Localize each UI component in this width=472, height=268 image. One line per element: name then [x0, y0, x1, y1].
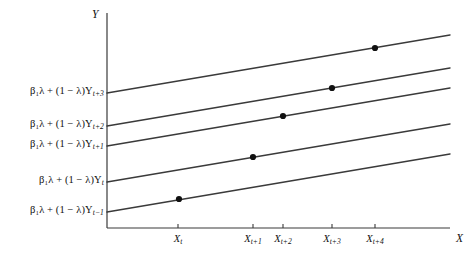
y-axis-tick-label: β₁λ + (1 − λ)Yt+1	[30, 138, 104, 149]
x-axis-tick-label-subscript: t+2	[281, 237, 292, 246]
y-axis-tick-label-text: β₁λ + (1 − λ)Y	[39, 174, 102, 185]
regression-line-4	[107, 124, 450, 182]
y-axis-tick-label-subscript: t	[102, 178, 104, 187]
y-axis-tick-label-text: β₁λ + (1 − λ)Y	[30, 85, 93, 96]
y-axis-tick-label-subscript: t−1	[93, 208, 104, 217]
y-axis-tick-label-text: β₁λ + (1 − λ)Y	[30, 138, 93, 149]
x-axis-tick-label: Xt	[158, 233, 198, 244]
data-point-point-t+3	[372, 45, 378, 51]
x-axis-tick-label-subscript: t	[180, 237, 182, 246]
y-axis-tick-label-text: β₁λ + (1 − λ)Y	[30, 118, 93, 129]
x-axis-tick-label: Xt+3	[312, 233, 352, 244]
data-point-point-t	[250, 154, 256, 160]
x-axis-title: X	[456, 232, 463, 244]
x-axis-tick-label-text: X	[244, 233, 250, 244]
plot-area	[0, 0, 472, 268]
y-axis-tick-label-subscript: t+2	[93, 122, 104, 131]
x-axis-tick-label: Xt+2	[263, 233, 303, 244]
x-axis-tick-label-subscript: t+4	[373, 237, 384, 246]
x-axis-tick-label-text: X	[366, 233, 372, 244]
x-axis-tick-label: Xt+4	[355, 233, 395, 244]
x-axis-tick-label-text: X	[323, 233, 329, 244]
y-axis-title: Y	[92, 8, 98, 20]
y-axis-tick-label: β₁λ + (1 − λ)Yt+2	[30, 118, 104, 129]
data-point-point-t+2	[329, 85, 335, 91]
y-axis-tick-label: β₁λ + (1 − λ)Yt	[39, 174, 104, 185]
y-axis-tick-label-text: β₁λ + (1 − λ)Y	[30, 204, 93, 215]
figure-canvas: β₁λ + (1 − λ)Yt+3β₁λ + (1 − λ)Yt+2β₁λ + …	[0, 0, 472, 268]
y-axis-tick-label: β₁λ + (1 − λ)Yt−1	[30, 204, 104, 215]
data-point-point-t-1	[176, 196, 182, 202]
x-axis-tick-label-subscript: t+3	[330, 237, 341, 246]
y-axis-tick-label: β₁λ + (1 − λ)Yt+3	[30, 85, 104, 96]
data-point-point-t+1	[280, 113, 286, 119]
y-axis-tick-label-subscript: t+3	[93, 89, 104, 98]
y-axis-tick-label-subscript: t+1	[93, 142, 104, 151]
regression-line-1	[107, 35, 450, 93]
regression-line-5	[107, 154, 450, 212]
x-axis-tick-label-text: X	[274, 233, 280, 244]
x-axis-tick-label-subscript: t+1	[251, 237, 262, 246]
